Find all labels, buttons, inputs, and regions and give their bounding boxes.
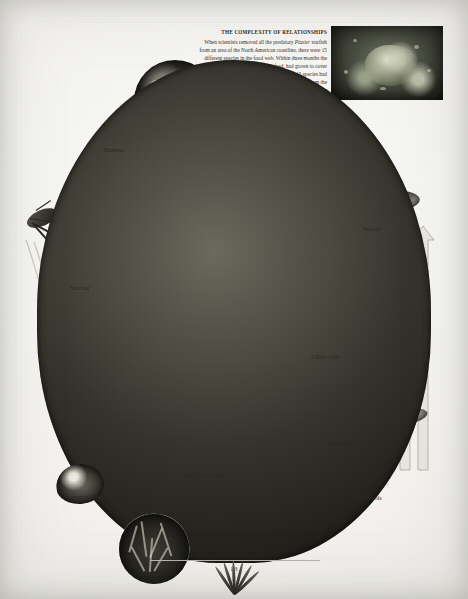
label-sea-urchin: Edible sea urchin — [183, 472, 226, 478]
label-edible-crab: Edible crab — [311, 354, 339, 360]
body-part-1: When scientists removed all the predator… — [204, 39, 295, 45]
label-pollack: Pollack — [363, 226, 381, 232]
photo-speck — [380, 87, 386, 90]
book-page: THE COMPLEXITY OF RELATIONSHIPS When sci… — [0, 0, 468, 599]
label-phytoplankton: Phytoplankton — [191, 539, 227, 545]
photo-speck — [414, 45, 419, 49]
textblock-heading: THE COMPLEXITY OF RELATIONSHIPS — [199, 29, 327, 36]
plankton-filament — [140, 521, 147, 557]
label-sun-star: Sun star — [70, 285, 90, 291]
algae-and-starfish-photo — [331, 26, 443, 100]
starfish-shape — [365, 45, 419, 86]
label-common-limpet: Common limpet — [66, 494, 105, 500]
label-grey-mullet: Thick-lipped grey mullet — [327, 440, 388, 446]
page-number: 13 — [0, 565, 468, 573]
photo-speck — [344, 70, 348, 74]
phytoplankton-micrograph — [119, 514, 189, 584]
body-italic-1: Piaster — [295, 39, 310, 45]
photo-speck — [353, 39, 357, 42]
footer-rule — [150, 560, 320, 561]
label-seaweeds: Seaweeds — [358, 495, 382, 501]
photo-speck — [427, 69, 431, 72]
label-humans: Humans — [104, 147, 124, 153]
